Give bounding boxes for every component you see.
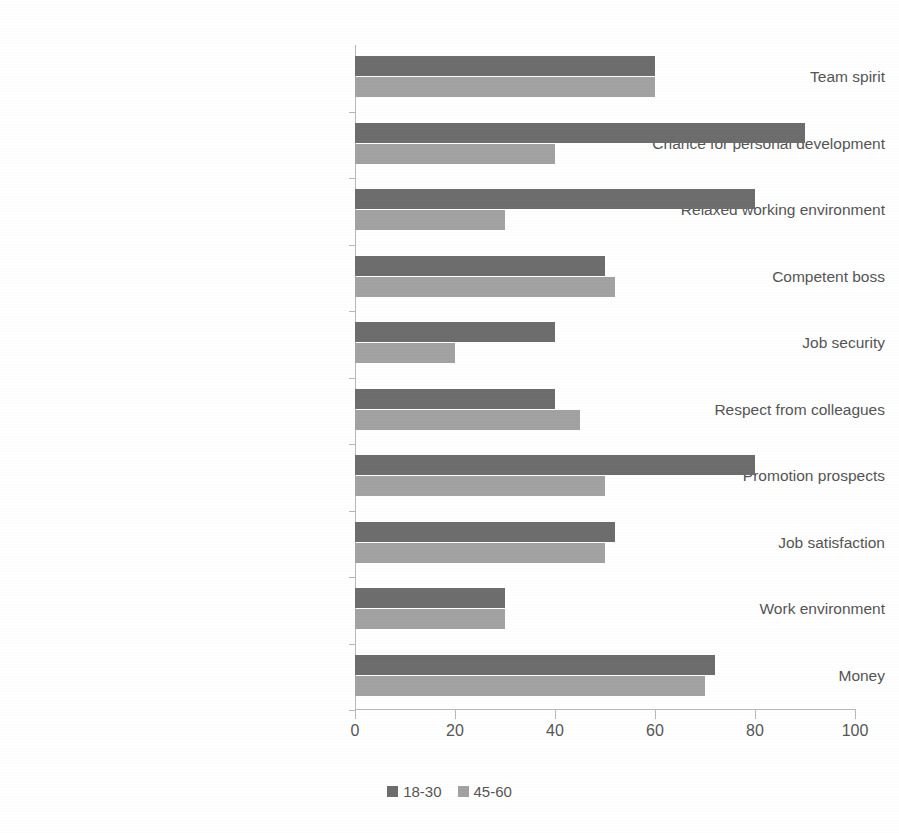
y-axis-tick (349, 112, 355, 113)
legend-swatch-icon (387, 786, 398, 797)
plot-area (355, 45, 855, 710)
x-axis-tick (855, 710, 856, 719)
bar-18-30-team-spirit[interactable] (355, 56, 655, 76)
x-axis-tick-label: 20 (425, 722, 485, 740)
bar-18-30-job-satisfaction[interactable] (355, 522, 615, 542)
bar-18-30-money[interactable] (355, 655, 715, 675)
bar-45-60-respect-from-colleagues[interactable] (355, 410, 580, 430)
bar-18-30-relaxed-working-environment[interactable] (355, 189, 755, 209)
bar-45-60-job-satisfaction[interactable] (355, 543, 605, 563)
y-axis-tick (349, 245, 355, 246)
y-axis-tick (349, 644, 355, 645)
x-axis-tick (755, 710, 756, 719)
y-axis-tick (349, 577, 355, 578)
legend-swatch-icon (458, 786, 469, 797)
bar-18-30-chance-for-personal-development[interactable] (355, 123, 805, 143)
bar-45-60-team-spirit[interactable] (355, 77, 655, 97)
bar-18-30-respect-from-colleagues[interactable] (355, 389, 555, 409)
x-axis-tick (655, 710, 656, 719)
legend-label: 18-30 (403, 783, 441, 800)
y-axis-tick (349, 178, 355, 179)
x-axis-tick-label: 100 (825, 722, 885, 740)
chart-legend: 18-3045-60 (0, 783, 899, 800)
y-axis-tick (349, 378, 355, 379)
bar-18-30-job-security[interactable] (355, 322, 555, 342)
x-axis-tick-label: 40 (525, 722, 585, 740)
bar-45-60-work-environment[interactable] (355, 609, 505, 629)
bar-45-60-competent-boss[interactable] (355, 277, 615, 297)
bar-45-60-promotion-prospects[interactable] (355, 476, 605, 496)
y-axis-tick (349, 444, 355, 445)
chart-title (0, 0, 899, 4)
x-axis-tick-label: 60 (625, 722, 685, 740)
bar-45-60-relaxed-working-environment[interactable] (355, 210, 505, 230)
x-axis-tick (555, 710, 556, 719)
y-axis-tick (349, 511, 355, 512)
x-axis-tick (355, 710, 356, 719)
legend-label: 45-60 (474, 783, 512, 800)
bar-18-30-promotion-prospects[interactable] (355, 455, 755, 475)
bar-45-60-chance-for-personal-development[interactable] (355, 144, 555, 164)
y-axis-tick (349, 311, 355, 312)
x-axis-tick-label: 0 (325, 722, 385, 740)
x-axis-tick (455, 710, 456, 719)
bar-45-60-money[interactable] (355, 676, 705, 696)
bar-18-30-competent-boss[interactable] (355, 256, 605, 276)
x-axis-tick-label: 80 (725, 722, 785, 740)
bar-18-30-work-environment[interactable] (355, 588, 505, 608)
legend-item-45-60[interactable]: 45-60 (458, 783, 512, 800)
legend-item-18-30[interactable]: 18-30 (387, 783, 441, 800)
bar-45-60-job-security[interactable] (355, 343, 455, 363)
